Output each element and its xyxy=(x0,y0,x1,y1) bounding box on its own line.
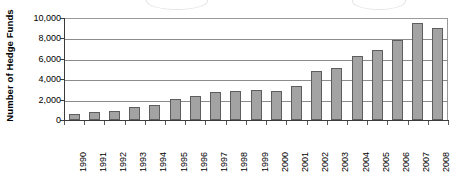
y-tick-mark xyxy=(60,38,64,39)
x-tick-label: 2001 xyxy=(301,152,310,172)
x-tick-mark xyxy=(448,121,449,125)
x-tick-mark xyxy=(205,121,206,125)
y-tick-mark xyxy=(60,100,64,101)
bar xyxy=(412,23,423,120)
bar xyxy=(331,68,342,120)
x-tick-label: 1995 xyxy=(180,152,189,172)
bar xyxy=(69,114,80,120)
hedge-fund-bar-chart: Number of Hedge Funds 02,0004,0006,0008,… xyxy=(0,0,458,176)
bar xyxy=(291,86,302,120)
x-tick-label: 1996 xyxy=(200,152,209,172)
bar xyxy=(170,99,181,120)
bar xyxy=(432,28,443,120)
y-tick-mark xyxy=(60,59,64,60)
x-tick-mark xyxy=(367,121,368,125)
y-tick-mark xyxy=(60,18,64,19)
gridline xyxy=(64,80,448,81)
x-tick-label: 1997 xyxy=(220,152,229,172)
x-tick-label: 2008 xyxy=(442,152,451,172)
x-tick-label: 2003 xyxy=(341,152,350,172)
x-tick-label: 1990 xyxy=(79,152,88,172)
x-tick-label: 2007 xyxy=(422,152,431,172)
x-tick-mark xyxy=(145,121,146,125)
bar xyxy=(352,56,363,120)
gridline xyxy=(64,39,448,40)
x-tick-mark xyxy=(84,121,85,125)
scan-artifact-left xyxy=(146,0,208,10)
bar xyxy=(129,107,140,120)
gridline xyxy=(64,60,448,61)
bar xyxy=(251,90,262,120)
y-tick-label: 8,000 xyxy=(16,33,61,43)
x-tick-label: 1993 xyxy=(139,152,148,172)
y-axis-tick-labels: 02,0004,0006,0008,00010,000 xyxy=(16,12,61,128)
scan-artifact-right xyxy=(352,0,406,10)
bar xyxy=(109,111,120,120)
bar xyxy=(149,105,160,120)
x-tick-mark xyxy=(347,121,348,125)
x-tick-mark xyxy=(246,121,247,125)
bar xyxy=(372,50,383,120)
y-axis-title-text: Number of Hedge Funds xyxy=(4,9,15,121)
plot-right-edge xyxy=(447,19,448,121)
y-axis-line xyxy=(64,18,65,121)
y-tick-mark xyxy=(60,79,64,80)
x-tick-mark xyxy=(165,121,166,125)
y-tick-label: 2,000 xyxy=(16,95,61,105)
x-tick-mark xyxy=(387,121,388,125)
x-tick-mark xyxy=(286,121,287,125)
x-tick-mark xyxy=(64,121,65,125)
x-tick-label: 1991 xyxy=(99,152,108,172)
x-tick-label: 2005 xyxy=(382,152,391,172)
x-tick-mark xyxy=(307,121,308,125)
x-tick-label: 2004 xyxy=(362,152,371,172)
x-axis-line xyxy=(64,120,449,121)
x-tick-label: 1994 xyxy=(159,152,168,172)
bar xyxy=(89,112,100,120)
x-tick-mark xyxy=(185,121,186,125)
x-tick-mark xyxy=(226,121,227,125)
bar xyxy=(271,91,282,120)
x-tick-label: 2002 xyxy=(321,152,330,172)
bar xyxy=(190,96,201,120)
y-tick-label: 10,000 xyxy=(16,13,61,23)
x-tick-mark xyxy=(266,121,267,125)
x-tick-label: 1992 xyxy=(119,152,128,172)
bar xyxy=(392,40,403,120)
x-tick-label: 2000 xyxy=(281,152,290,172)
bar xyxy=(311,71,322,120)
x-tick-mark xyxy=(428,121,429,125)
bar xyxy=(210,92,221,120)
x-tick-mark xyxy=(327,121,328,125)
y-tick-label: 4,000 xyxy=(16,74,61,84)
y-tick-label: 6,000 xyxy=(16,54,61,64)
x-tick-label: 2006 xyxy=(402,152,411,172)
x-tick-label: 1999 xyxy=(261,152,270,172)
x-tick-mark xyxy=(408,121,409,125)
x-tick-mark xyxy=(125,121,126,125)
y-tick-label: 0 xyxy=(16,115,61,125)
bar xyxy=(230,91,241,120)
x-tick-mark xyxy=(104,121,105,125)
x-tick-label: 1998 xyxy=(240,152,249,172)
